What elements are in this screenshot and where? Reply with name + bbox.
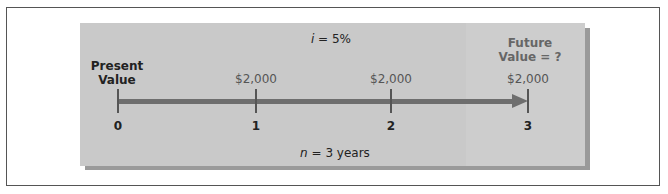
periods-label: n = 3 years: [270, 146, 400, 160]
present-value-line1: Present: [82, 59, 152, 73]
interest-value: = 5%: [314, 32, 351, 46]
periods-value: = 3 years: [308, 146, 370, 160]
timeline-axis: [119, 99, 519, 104]
period-label-3: 3: [508, 119, 548, 133]
tick-2: [390, 89, 392, 113]
arrow-right-icon: [512, 94, 528, 108]
period-label-1: 1: [236, 119, 276, 133]
tick-1: [255, 89, 257, 113]
payment-label-2: $2,000: [361, 72, 421, 86]
present-value-line2: Value: [82, 73, 152, 87]
tick-3: [527, 89, 529, 113]
period-label-2: 2: [371, 119, 411, 133]
future-value-line2: Value = ?: [490, 50, 570, 64]
tick-0: [117, 89, 119, 113]
future-value-label: Future Value = ?: [490, 36, 570, 64]
period-label-0: 0: [98, 119, 138, 133]
periods-var: n: [300, 146, 308, 160]
future-value-line1: Future: [490, 36, 570, 50]
payment-label-3: $2,000: [498, 72, 558, 86]
payment-label-1: $2,000: [226, 72, 286, 86]
interest-rate-label: i = 5%: [276, 32, 386, 46]
present-value-label: Present Value: [82, 59, 152, 87]
